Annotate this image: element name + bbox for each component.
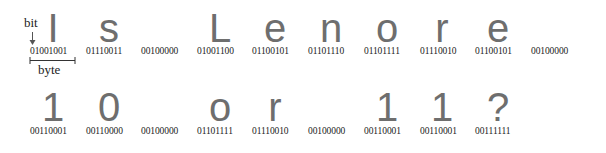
binary-code: 01001001	[30, 46, 67, 56]
char-glyph: L	[195, 8, 245, 48]
char-glyph: n	[306, 8, 356, 48]
binary-code: 00110001	[364, 126, 401, 136]
binary-code: 01100101	[252, 46, 289, 56]
binary-code: 00100000	[308, 126, 345, 136]
char-glyph: 0	[84, 87, 134, 127]
char-glyph: 1	[362, 87, 412, 127]
binary-code: 01110011	[86, 46, 122, 56]
byte-label: byte	[38, 62, 60, 78]
binary-code: 00100000	[531, 46, 568, 56]
char-glyph: e	[473, 8, 523, 48]
char-glyph: o	[195, 87, 245, 127]
binary-code: 00100000	[141, 126, 178, 136]
binary-code: 01101111	[364, 46, 400, 56]
binary-code: 01001100	[197, 46, 234, 56]
char-glyph: 1	[417, 87, 467, 127]
binary-code: 01100101	[475, 46, 512, 56]
char-glyph: r	[417, 8, 467, 48]
char-glyph: ?	[473, 87, 523, 127]
bit-label: bit	[24, 15, 38, 31]
binary-code: 00110001	[420, 126, 457, 136]
binary-code: 00111111	[475, 126, 510, 136]
binary-code: 00100000	[141, 46, 178, 56]
binary-code: 01101111	[197, 126, 233, 136]
binary-code: 00110000	[86, 126, 123, 136]
char-glyph: e	[250, 8, 300, 48]
char-glyph: 1	[28, 87, 78, 127]
char-glyph: r	[250, 87, 300, 127]
char-glyph: o	[362, 8, 412, 48]
char-glyph: s	[84, 8, 134, 48]
binary-code: 01101110	[308, 46, 344, 56]
binary-code: 00110001	[30, 126, 67, 136]
binary-code: 01110010	[252, 126, 289, 136]
binary-code: 01110010	[420, 46, 457, 56]
arrow-down-icon	[28, 32, 38, 46]
